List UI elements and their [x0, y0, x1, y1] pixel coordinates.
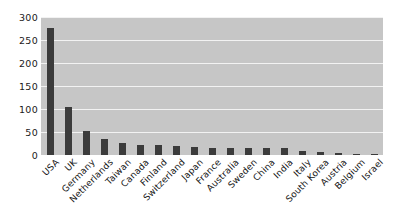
y-axis-tick-label: 150 — [2, 81, 38, 92]
bar — [173, 146, 180, 155]
bar — [281, 148, 288, 155]
bar — [317, 152, 324, 155]
bar — [209, 148, 216, 155]
plot-area — [41, 17, 383, 155]
bar — [299, 151, 306, 155]
bar — [227, 148, 234, 155]
bars-group — [41, 17, 383, 155]
x-axis-tick-label: India — [272, 157, 295, 180]
bar — [83, 131, 90, 155]
y-axis-tick-label: 250 — [2, 35, 38, 46]
bar — [137, 145, 144, 155]
bar-chart: 050100150200250300 USAUKGermanyNetherlan… — [0, 0, 403, 222]
bar — [191, 147, 198, 155]
y-axis-tick-label: 300 — [2, 12, 38, 23]
bar — [353, 154, 360, 155]
x-axis: USAUKGermanyNetherlandsTaiwanCanadaFinla… — [41, 157, 403, 222]
bar — [263, 148, 270, 155]
y-axis-tick-label: 200 — [2, 58, 38, 69]
bar — [47, 28, 54, 155]
y-axis-tick-label: 100 — [2, 104, 38, 115]
y-axis: 050100150200250300 — [0, 0, 38, 222]
bar — [101, 139, 108, 155]
bar — [371, 154, 378, 155]
bar — [335, 153, 342, 155]
bar — [245, 148, 252, 155]
bar — [155, 145, 162, 155]
y-axis-tick-label: 50 — [2, 127, 38, 138]
bar — [65, 107, 72, 155]
x-axis-tick-label: USA — [40, 157, 61, 178]
y-axis-tick-label: 0 — [2, 150, 38, 161]
bar — [119, 143, 126, 155]
